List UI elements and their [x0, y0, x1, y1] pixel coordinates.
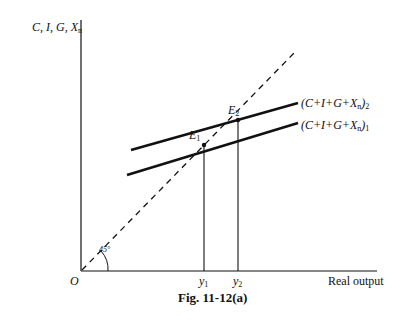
origin-label: O [70, 274, 79, 289]
45-degree-line [82, 50, 297, 270]
angle-arc [101, 251, 108, 271]
point-e2 [236, 118, 240, 122]
x-tick-y1: y1 [199, 274, 208, 289]
x-tick-y2: y2 [233, 274, 242, 289]
spending-line-2 [131, 103, 298, 150]
figure-caption: Fig. 11-12(a) [178, 290, 247, 306]
curve-label-2: (C+I+G+Xn)2 [301, 96, 369, 111]
point-e1-label: E1 [189, 128, 200, 143]
angle-label: 45° [99, 245, 110, 254]
y-axis-label: C, I, G, Xn [32, 20, 82, 35]
x-axis-label: Real output [328, 274, 384, 289]
curve-label-1: (C+I+G+Xn)1 [301, 118, 369, 133]
spending-line-1 [127, 123, 298, 175]
point-e1 [202, 143, 206, 147]
point-e2-label: E2 [228, 103, 239, 118]
